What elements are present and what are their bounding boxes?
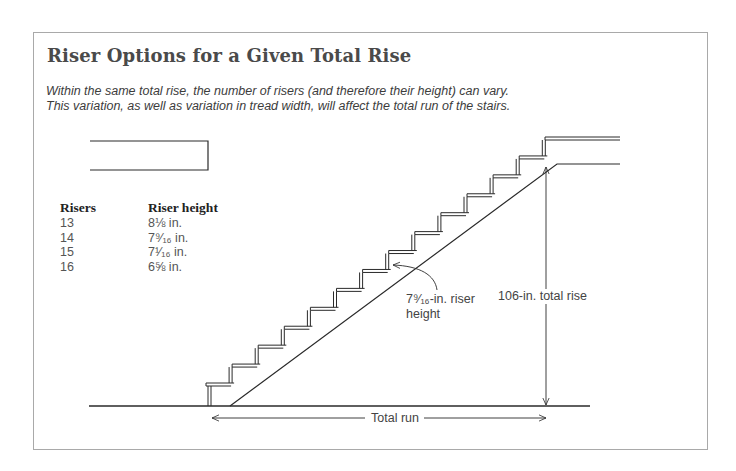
top-landing <box>545 137 620 140</box>
riser-height-label: 7⁹⁄₁₆-in. riser height <box>406 292 475 322</box>
riser-height-label-line-1: 7⁹⁄₁₆-in. riser <box>406 292 475 307</box>
riser-height-label-line-2: height <box>406 307 475 322</box>
stair-steps <box>206 140 547 406</box>
stringer-line <box>230 164 620 406</box>
upper-floor-edge <box>90 141 208 170</box>
staircase-drawing <box>0 0 736 471</box>
total-run-label: Total run <box>371 411 419 426</box>
total-rise-label: 106-in. total rise <box>496 289 589 304</box>
